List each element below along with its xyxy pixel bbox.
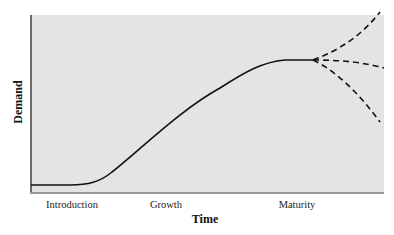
plot-area	[30, 15, 384, 193]
y-axis-title: Demand	[11, 80, 25, 124]
x-axis-title: Time	[192, 212, 219, 226]
stage-label-maturity: Maturity	[279, 199, 316, 210]
product-life-cycle-chart: Introduction Growth Maturity Time Demand	[0, 0, 394, 235]
stage-label-introduction: Introduction	[46, 199, 99, 210]
stage-label-growth: Growth	[150, 199, 183, 210]
